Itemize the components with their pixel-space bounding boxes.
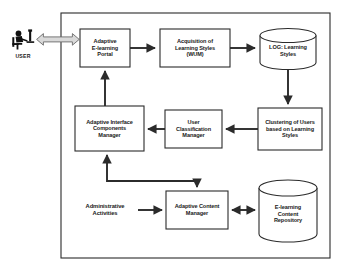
actor-label: USER [6, 53, 40, 59]
diagram-canvas: USER Adaptive E-learning Portal Acquisit… [0, 0, 351, 274]
user-at-desk-icon [12, 29, 34, 49]
node-content-manager[interactable] [166, 191, 228, 229]
node-portal[interactable] [80, 29, 130, 67]
node-log-store[interactable] [260, 29, 316, 70]
node-acquisition[interactable] [160, 29, 230, 67]
node-interface-manager[interactable] [75, 106, 144, 151]
connector-interface-content-manager [107, 155, 197, 187]
node-content-repository[interactable] [259, 180, 317, 242]
node-clustering[interactable] [258, 108, 322, 150]
connector-user-portal [37, 34, 80, 46]
node-classification[interactable] [165, 110, 222, 148]
diagram-vector-layer [0, 0, 351, 274]
